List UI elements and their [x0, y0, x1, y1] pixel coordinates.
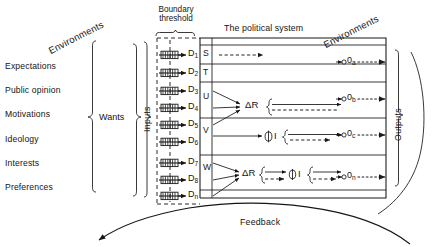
phi-i-symbol-w: [289, 169, 295, 180]
political-system-title: The political system: [224, 24, 303, 33]
boundary-threshold-line1: Boundary: [158, 5, 193, 14]
v-brace: [283, 130, 289, 144]
demand-filter-4: [159, 104, 186, 111]
boundary-threshold-label: Boundary threshold: [146, 5, 206, 23]
demand-filter-9: [159, 192, 186, 199]
output-nodes: [336, 60, 346, 179]
env-source-expectations: Expectations: [5, 62, 56, 71]
output-label-a: 0a: [347, 56, 356, 67]
demand-label-9: Dn: [188, 190, 198, 201]
wants-label: Wants: [99, 113, 124, 122]
demand-label-1: D1: [188, 49, 198, 60]
u-brace: [267, 99, 273, 115]
processor-phi-i-w: I: [298, 169, 301, 179]
output-label-b: 0b: [347, 93, 356, 104]
channel-u-fanin: [213, 91, 240, 125]
demand-filter-1: [159, 51, 186, 58]
demand-label-7: D7: [188, 157, 198, 168]
demand-filter-7: [159, 159, 186, 166]
demand-filter-3: [159, 87, 186, 94]
demand-label-3: D3: [188, 85, 198, 96]
output-label-c: 0c: [347, 129, 355, 140]
processor-delta-r-w: ΔR: [242, 168, 256, 178]
channel-label-t: T: [203, 68, 208, 77]
env-source-preferences: Preferences: [5, 183, 53, 192]
demand-label-2: D2: [188, 67, 198, 78]
demand-filter-6: [159, 138, 186, 145]
env-source-ideology: Ideology: [5, 135, 39, 144]
w-brace-2: [308, 167, 314, 183]
channel-label-v: V: [203, 126, 209, 135]
demand-filter-5: [159, 121, 186, 128]
output-dotted-arrows: [358, 62, 385, 177]
channel-label-u: U: [203, 92, 209, 101]
boundary-threshold-line2: threshold: [159, 14, 193, 23]
w-brace-1: [260, 167, 266, 183]
demand-filter-8: [159, 176, 186, 183]
env-source-public-opinion: Public opinion: [5, 86, 61, 95]
processor-phi-i-v: I: [274, 131, 277, 141]
env-source-motivations: Motivations: [5, 110, 50, 119]
demand-label-8: D8: [188, 174, 198, 185]
boundary-threshold-brace: [156, 30, 195, 36]
environment-brace-outer: [88, 41, 96, 192]
output-label-n: 0n: [347, 171, 356, 182]
demand-filter-2: [159, 69, 186, 76]
demand-label-4: D4: [188, 102, 198, 113]
channel-w-fanin: [213, 163, 239, 196]
demand-filters: [159, 51, 186, 199]
channel-label-s: S: [203, 49, 209, 58]
env-source-interests: Interests: [5, 159, 39, 168]
demand-label-6: D6: [188, 136, 198, 147]
outputs-label: Outputs: [394, 108, 403, 141]
phi-i-symbol-v: [265, 131, 272, 143]
processor-delta-r-u: ΔR: [245, 100, 259, 110]
channel-label-w: W: [203, 163, 211, 172]
feedback-label: Feedback: [240, 218, 280, 227]
inputs-label: Inputs: [143, 106, 152, 132]
diagram-canvas: Environments Environments Expectations P…: [0, 0, 433, 247]
environment-brace-inner: [133, 44, 141, 196]
demand-label-5: D5: [188, 119, 198, 130]
